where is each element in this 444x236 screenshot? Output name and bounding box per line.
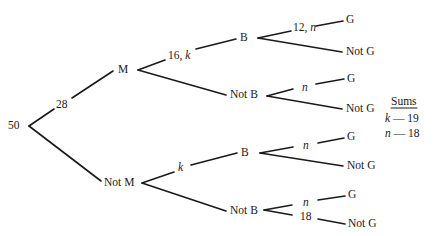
edge-notb2-g-b <box>318 196 345 200</box>
node-not-b-lower: Not B <box>230 205 258 217</box>
edge-m-b-a <box>138 60 165 70</box>
edge-label-n-2: n <box>302 82 308 94</box>
edge-label-n-3: n <box>303 140 309 152</box>
edge-b1-notg <box>258 38 342 52</box>
edge-notm-notb <box>142 183 226 211</box>
sums-var-k: k <box>385 112 390 124</box>
edge-b1-g-b <box>316 21 343 26</box>
leaf-not-g-2: Not G <box>346 103 374 115</box>
sums-dash-k: — <box>393 112 405 124</box>
edge-label-18: 18 <box>300 211 312 223</box>
edge-label-n: n <box>310 21 316 33</box>
node-not-m: Not M <box>104 177 134 189</box>
edge-label-k-lower: k <box>178 162 183 174</box>
edge-label-12: 12, <box>293 21 307 33</box>
sums-value-k: 19 <box>407 112 419 124</box>
edge-notb2-notg-a <box>264 210 292 215</box>
edge-label-n-4: n <box>303 197 309 209</box>
leaf-not-g-1: Not G <box>346 46 374 58</box>
edge-b2-g-b <box>318 138 344 143</box>
edge-b2-notg <box>260 153 343 166</box>
edge-label-k: k <box>185 49 190 61</box>
sums-row-k: k — 19 <box>385 113 419 125</box>
leaf-not-g-3: Not G <box>347 160 375 172</box>
edge-label-28: 28 <box>56 99 68 111</box>
edge-root-m-a <box>29 109 54 126</box>
edge-root-notm <box>29 126 101 181</box>
sums-title: Sums <box>391 96 417 108</box>
edge-b1-g-a <box>258 31 291 38</box>
edge-notb1-g-a <box>267 89 293 96</box>
edge-root-m-b <box>72 71 113 98</box>
edge-notm-b-a <box>142 172 174 183</box>
edge-notb2-g-a <box>264 205 292 210</box>
sums-var-n: n <box>385 127 391 139</box>
root-node-label: 50 <box>8 120 20 132</box>
edge-notb1-notg <box>267 96 342 109</box>
sums-value-n: 18 <box>408 127 420 139</box>
node-m: M <box>118 64 128 76</box>
edge-notb1-g-b <box>316 79 344 84</box>
leaf-g-4: G <box>348 189 356 201</box>
sums-row-n: n — 18 <box>385 128 420 140</box>
leaf-g-3: G <box>347 131 355 143</box>
edge-notb2-notg-b <box>318 219 345 224</box>
edge-label-16: 16, <box>168 49 182 61</box>
edge-b2-g-a <box>260 147 293 153</box>
edge-label-12-n: 12, n <box>293 22 316 34</box>
node-not-b-upper: Not B <box>230 89 258 101</box>
leaf-g-2: G <box>347 73 355 85</box>
edge-label-16-k: 16, k <box>168 50 190 62</box>
edge-notm-b-b <box>191 153 237 165</box>
tree-edges <box>0 0 444 236</box>
node-b-lower: B <box>241 147 249 159</box>
node-b-upper: B <box>240 32 248 44</box>
leaf-g-1: G <box>346 14 354 26</box>
sums-dash-n: — <box>394 127 406 139</box>
leaf-not-g-4: Not G <box>348 218 376 230</box>
edge-m-b-b <box>196 39 236 49</box>
edge-m-notb <box>138 70 226 95</box>
